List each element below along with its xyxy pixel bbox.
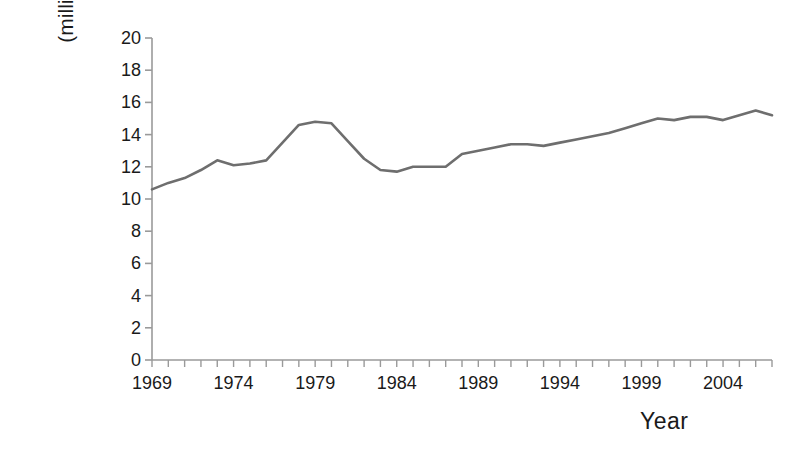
line-chart: Quantity (millions of barrels per day) Y… [0,0,792,455]
plot-area [0,0,792,455]
y-axis-ticks [145,38,152,360]
x-axis-ticks [152,360,772,367]
data-series-line [152,110,772,189]
axis-lines [152,38,772,360]
